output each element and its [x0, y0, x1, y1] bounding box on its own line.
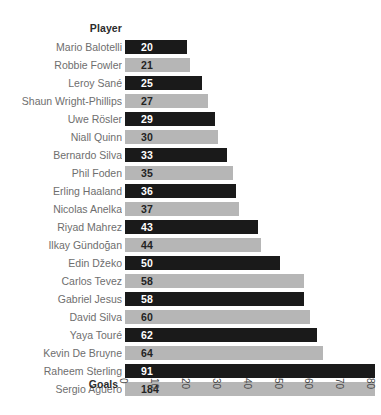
bar-value-label: 27	[141, 94, 153, 108]
bar	[125, 58, 190, 72]
chart-row: Erling Haaland36	[0, 182, 381, 200]
bar-track: 64	[125, 344, 375, 362]
player-name-label: Yaya Touré	[0, 326, 122, 344]
player-name-label: Carlos Tevez	[0, 272, 122, 290]
player-name-label: Ilkay Gündoğan	[0, 236, 122, 254]
x-axis-tick-label: 0	[118, 378, 129, 384]
bar-track: 58	[125, 272, 375, 290]
bar-value-label: 35	[141, 166, 153, 180]
bar	[125, 364, 375, 378]
x-axis-tick: 80	[365, 378, 379, 408]
bar-value-label: 21	[141, 58, 153, 72]
chart-row: David Silva60	[0, 308, 381, 326]
bar-value-label: 60	[141, 310, 153, 324]
bar	[125, 40, 187, 54]
x-axis-tick: 60	[303, 378, 317, 408]
player-name-label: Phil Foden	[0, 164, 122, 182]
bar-track: 35	[125, 164, 375, 182]
x-axis-tick: 10	[149, 378, 163, 408]
bar-value-label: 64	[141, 346, 153, 360]
bar-value-label: 44	[141, 238, 153, 252]
x-axis-tick-label: 50	[273, 378, 284, 389]
bar-value-label: 58	[141, 274, 153, 288]
bar-track: 20	[125, 38, 375, 56]
bar-value-label: 33	[141, 148, 153, 162]
x-axis-tick-label: 60	[303, 378, 314, 389]
bar-track: 29	[125, 110, 375, 128]
bar-track: 60	[125, 308, 375, 326]
player-name-label: Robbie Fowler	[0, 56, 122, 74]
chart-row: Mario Balotelli20	[0, 38, 381, 56]
bar-track: 30	[125, 128, 375, 146]
bar	[125, 94, 208, 108]
x-axis-tick: 30	[211, 378, 225, 408]
bar-track: 43	[125, 218, 375, 236]
chart-row: Phil Foden35	[0, 164, 381, 182]
x-axis-tick: 50	[273, 378, 287, 408]
x-axis: Goals 01020304050607080	[0, 378, 381, 415]
chart-row: Edin Džeko50	[0, 254, 381, 272]
x-axis-tick: 70	[334, 378, 348, 408]
bar-track: 25	[125, 74, 375, 92]
x-axis-tick: 20	[180, 378, 194, 408]
player-name-label: Nicolas Anelka	[0, 200, 122, 218]
chart-row: Nicolas Anelka37	[0, 200, 381, 218]
bar-value-label: 20	[141, 40, 153, 54]
bar-value-label: 29	[141, 112, 153, 126]
player-name-label: Niall Quinn	[0, 128, 122, 146]
player-name-label: Mario Balotelli	[0, 38, 122, 56]
bar-track: 44	[125, 236, 375, 254]
chart-rows: Mario Balotelli20Robbie Fowler21Leroy Sa…	[0, 38, 381, 398]
x-axis-tick: 0	[118, 378, 132, 408]
chart-row: Yaya Touré62	[0, 326, 381, 344]
bar-value-label: 43	[141, 220, 153, 234]
x-axis-tick-label: 10	[149, 378, 160, 389]
player-name-label: Erling Haaland	[0, 182, 122, 200]
bar-value-label: 91	[141, 364, 153, 378]
chart-row: Riyad Mahrez43	[0, 218, 381, 236]
player-name-label: Leroy Sané	[0, 74, 122, 92]
chart-row: Gabriel Jesus58	[0, 290, 381, 308]
bar-track: 37	[125, 200, 375, 218]
bar-value-label: 36	[141, 184, 153, 198]
bar-track: 33	[125, 146, 375, 164]
bar-track: 62	[125, 326, 375, 344]
axis-title-goals: Goals	[0, 378, 118, 391]
player-name-label: Bernardo Silva	[0, 146, 122, 164]
bar-track: 27	[125, 92, 375, 110]
bar-value-label: 25	[141, 76, 153, 90]
bar-track: 36	[125, 182, 375, 200]
player-name-label: Kevin De Bruyne	[0, 344, 122, 362]
bar-track: 21	[125, 56, 375, 74]
x-axis-tick-label: 70	[334, 378, 345, 389]
player-name-label: Riyad Mahrez	[0, 218, 122, 236]
chart-row: Carlos Tevez58	[0, 272, 381, 290]
x-axis-tick-label: 80	[365, 378, 376, 389]
player-column-header: Player	[0, 22, 122, 34]
x-axis-tick-label: 20	[180, 378, 191, 389]
chart-row: Uwe Rösler29	[0, 110, 381, 128]
bar	[125, 328, 317, 342]
bar-value-label: 62	[141, 328, 153, 342]
chart-row: Kevin De Bruyne64	[0, 344, 381, 362]
chart-row: Niall Quinn30	[0, 128, 381, 146]
player-name-label: Uwe Rösler	[0, 110, 122, 128]
bar	[125, 130, 218, 144]
x-axis-tick: 40	[242, 378, 256, 408]
bar-value-label: 30	[141, 130, 153, 144]
chart-row: Shaun Wright-Phillips27	[0, 92, 381, 110]
bar	[125, 112, 215, 126]
player-name-label: David Silva	[0, 308, 122, 326]
chart-row: Bernardo Silva33	[0, 146, 381, 164]
chart-row: Robbie Fowler21	[0, 56, 381, 74]
bar	[125, 346, 323, 360]
bar-value-label: 37	[141, 202, 153, 216]
goals-bar-chart: Player Mario Balotelli20Robbie Fowler21L…	[0, 0, 381, 415]
x-axis-tick-label: 40	[242, 378, 253, 389]
chart-row: Ilkay Gündoğan44	[0, 236, 381, 254]
bar-value-label: 50	[141, 256, 153, 270]
player-name-label: Gabriel Jesus	[0, 290, 122, 308]
bar-track: 50	[125, 254, 375, 272]
player-name-label: Edin Džeko	[0, 254, 122, 272]
player-name-label: Shaun Wright-Phillips	[0, 92, 122, 110]
